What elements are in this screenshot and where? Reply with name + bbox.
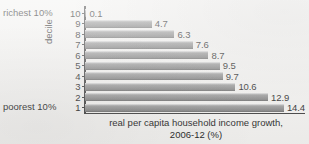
bar	[85, 93, 268, 101]
bar-value-label: 9.5	[223, 61, 236, 71]
y-axis-tick-label: 7	[75, 40, 80, 50]
bar	[85, 41, 193, 49]
bar	[85, 20, 152, 28]
y-axis-tick-mark	[82, 23, 86, 24]
y-axis-tick-mark	[82, 13, 86, 14]
bar	[85, 30, 174, 38]
bar-rows: 100.194.786.377.668.759.549.7310.6212.91…	[85, 8, 305, 113]
bar-value-label: 6.3	[177, 30, 190, 40]
income-growth-by-decile-chart: decile richest 10% poorest 10% 100.194.7…	[0, 0, 309, 144]
bar-row: 310.6	[85, 82, 305, 93]
y-axis-title: decile	[44, 19, 54, 44]
bar-row: 212.9	[85, 92, 305, 103]
plot-area: 100.194.786.377.668.759.549.7310.6212.91…	[85, 8, 305, 113]
y-axis-tick-label: 8	[75, 30, 80, 40]
bar-value-label: 0.1	[89, 9, 102, 19]
bar-value-label: 4.7	[155, 19, 168, 29]
bar-value-label: 9.7	[226, 72, 239, 82]
bar-row: 68.7	[85, 50, 305, 61]
bar-value-label: 8.7	[211, 51, 224, 61]
bar-row: 100.1	[85, 8, 305, 19]
y-axis-tick-mark	[82, 44, 86, 45]
bar	[85, 104, 284, 112]
x-axis-caption-line-1: real per capita household income growth,	[85, 117, 307, 129]
bar	[85, 62, 220, 70]
x-axis-caption-line-2: 2006-12 (%)	[85, 129, 307, 141]
y-axis-tick-label: 10	[70, 9, 81, 19]
y-axis-tick-label: 3	[75, 82, 80, 92]
y-axis-tick-mark	[82, 76, 86, 77]
y-axis-tick-mark	[82, 55, 86, 56]
bar-row: 114.4	[85, 103, 305, 114]
bar-value-label: 10.6	[238, 82, 256, 92]
y-axis-tick-label: 5	[75, 61, 80, 71]
bar-row: 86.3	[85, 29, 305, 40]
bar	[85, 72, 223, 80]
y-axis-tick-label: 1	[75, 103, 80, 113]
y-axis-tick-mark	[82, 97, 86, 98]
y-axis-tick-label: 9	[75, 19, 80, 29]
bar-row: 49.7	[85, 71, 305, 82]
annotation-richest-decile: richest 10%	[3, 8, 53, 18]
bar-value-label: 7.6	[196, 40, 209, 50]
y-axis-tick-mark	[82, 34, 86, 35]
bar-row: 94.7	[85, 19, 305, 30]
y-axis-tick-mark	[82, 86, 86, 87]
y-axis-tick-mark	[82, 107, 86, 108]
bar	[85, 51, 208, 59]
bar-value-label: 14.4	[287, 103, 305, 113]
bar-row: 77.6	[85, 40, 305, 51]
y-axis-tick-label: 6	[75, 51, 80, 61]
bar-value-label: 12.9	[271, 93, 289, 103]
y-axis-tick-label: 4	[75, 72, 80, 82]
y-axis-tick-label: 2	[75, 93, 80, 103]
bar-row: 59.5	[85, 61, 305, 72]
y-axis-tick-mark	[82, 65, 86, 66]
bar	[85, 83, 235, 91]
bar	[85, 9, 86, 17]
x-axis-caption: real per capita household income growth,…	[85, 117, 307, 141]
annotation-poorest-decile: poorest 10%	[3, 102, 56, 112]
